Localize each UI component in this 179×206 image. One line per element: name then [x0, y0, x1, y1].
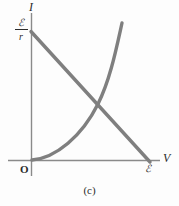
figure-container: I V O ℰ ℰ r (c)	[0, 0, 179, 206]
fraction-bar	[15, 29, 28, 30]
diode-characteristic-curve	[32, 23, 122, 160]
y-axis-label: I	[29, 1, 33, 13]
x-axis-label: V	[163, 152, 170, 164]
figure-caption: (c)	[0, 184, 179, 196]
y-intercept-label-emf-over-r: ℰ r	[13, 17, 29, 42]
load-line-curve	[31, 32, 150, 163]
fraction-numerator: ℰ	[13, 17, 29, 28]
x-intercept-label-emf: ℰ	[145, 164, 151, 174]
fraction-denominator: r	[13, 31, 29, 42]
origin-label: O	[20, 164, 29, 175]
